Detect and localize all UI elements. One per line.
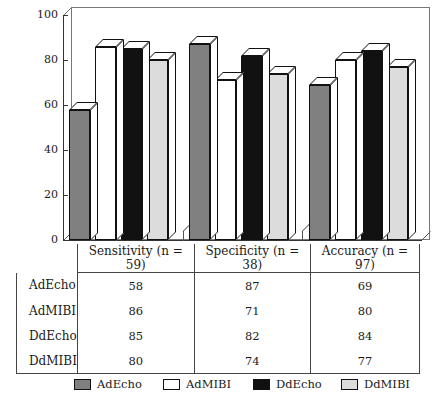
bar-front-face	[309, 85, 330, 240]
table-row-label: DdMIBI	[17, 348, 78, 374]
table-cell: 87	[194, 273, 310, 299]
bar-side-face	[262, 48, 270, 241]
table-row: DdEcho858284	[17, 323, 420, 348]
bar-side-face	[382, 43, 390, 240]
bar-front-face	[241, 56, 262, 241]
table-cell: 86	[77, 298, 194, 323]
table-corner-cell	[17, 244, 78, 273]
bar-front-face	[121, 49, 142, 240]
bar-side-face	[236, 72, 244, 240]
group-separator	[302, 231, 303, 241]
legend-item-ddecho: DdEcho	[253, 377, 322, 391]
table-column-header: Specificity (n = 38)	[194, 244, 310, 273]
table-cell: 80	[311, 298, 420, 323]
bar-front-face	[147, 60, 168, 240]
table-cell: 69	[311, 273, 420, 299]
table-cell: 71	[194, 298, 310, 323]
table-row: AdMIBI867180	[17, 298, 420, 323]
bar-front-face	[189, 44, 210, 240]
bar-adecho-sensitivity	[69, 110, 90, 241]
y-axis-tick-label: 100	[0, 9, 58, 20]
y-axis-line	[63, 15, 64, 240]
table-header-row: Sensitivity (n = 59)Specificity (n = 38)…	[17, 244, 420, 273]
legend-swatch	[253, 379, 270, 390]
table-cell: 80	[77, 348, 194, 374]
legend-label: DdMIBI	[364, 377, 410, 391]
bar-admibi-sensitivity	[95, 47, 116, 241]
bar-chart-plot: 020406080100	[0, 0, 436, 252]
legend-item-adecho: AdEcho	[74, 377, 142, 391]
bar-ddecho-sensitivity	[121, 49, 142, 240]
legend-swatch	[341, 379, 358, 390]
bar-side-face	[116, 39, 124, 241]
legend-label: AdMIBI	[186, 377, 231, 391]
table-row-label: DdEcho	[17, 323, 78, 348]
bar-side-face	[288, 66, 296, 241]
table-cell: 82	[194, 323, 310, 348]
bar-adecho-accuracy	[309, 85, 330, 240]
bar-ddecho-specificity	[241, 56, 262, 241]
x-axis-line	[63, 240, 422, 241]
legend-item-ddmibi: DdMIBI	[341, 377, 410, 391]
table-row: DdMIBI807477	[17, 348, 420, 374]
legend-swatch	[74, 379, 91, 390]
bar-side-face	[210, 36, 218, 240]
bar-ddmibi-sensitivity	[147, 60, 168, 240]
bar-front-face	[215, 80, 236, 240]
bar-front-face	[267, 74, 288, 241]
y-axis-tick-label: 20	[0, 189, 58, 200]
chart-figure: 020406080100 Sensitivity (n = 59)Specifi…	[0, 0, 436, 401]
bar-side-face	[408, 59, 416, 240]
data-table: Sensitivity (n = 59)Specificity (n = 38)…	[16, 244, 420, 368]
table-cell: 74	[194, 348, 310, 374]
bar-side-face	[330, 77, 338, 240]
y-axis-tick-label: 40	[0, 144, 58, 155]
bar-side-face	[168, 52, 176, 240]
table-row: AdEcho588769	[17, 273, 420, 299]
legend-label: AdEcho	[97, 377, 142, 391]
bar-admibi-specificity	[215, 80, 236, 240]
table-column-header: Accuracy (n = 97)	[311, 244, 420, 273]
table-row-label: AdEcho	[17, 273, 78, 299]
y-axis-tick-label: 80	[0, 54, 58, 65]
bar-side-face	[356, 52, 364, 240]
table-row-label: AdMIBI	[17, 298, 78, 323]
y-axis-tick-label: 60	[0, 99, 58, 110]
legend-label: DdEcho	[276, 377, 322, 391]
group-separator	[183, 231, 184, 241]
table-body: AdEcho588769AdMIBI867180DdEcho858284DdMI…	[17, 273, 420, 374]
table-cell: 84	[311, 323, 420, 348]
table-cell: 77	[311, 348, 420, 374]
bar-side-face	[90, 102, 98, 241]
axis-corner-bottom-right	[421, 231, 431, 241]
chart-legend: AdEchoAdMIBIDdEchoDdMIBI	[16, 374, 420, 394]
bar-front-face	[69, 110, 90, 241]
legend-swatch	[163, 379, 180, 390]
table-cell: 58	[77, 273, 194, 299]
bar-adecho-specificity	[189, 44, 210, 240]
table-column-header: Sensitivity (n = 59)	[77, 244, 194, 273]
legend-item-admibi: AdMIBI	[163, 377, 231, 391]
bar-front-face	[95, 47, 116, 241]
bar-ddmibi-specificity	[267, 74, 288, 241]
table-cell: 85	[77, 323, 194, 348]
bar-side-face	[142, 41, 150, 240]
